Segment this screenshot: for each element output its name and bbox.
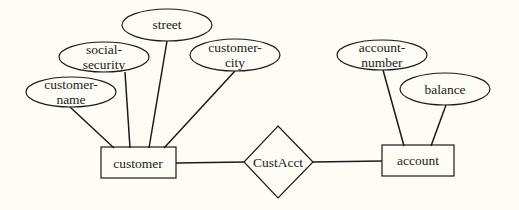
- edge-balance: [431, 105, 446, 146]
- label-line: customer-: [44, 77, 98, 92]
- edge-account-number: [383, 70, 404, 146]
- label-street: street: [152, 17, 181, 32]
- edge-street: [149, 41, 167, 148]
- label-social-security: social- security: [83, 42, 126, 72]
- label-custacct: CustAcct: [253, 155, 303, 170]
- edge-social-security: [125, 72, 130, 148]
- label-balance: balance: [424, 82, 465, 97]
- label-line: account-: [359, 40, 405, 55]
- edge-customer-custacct: [176, 162, 244, 163]
- er-diagram: customer- name social- security street c…: [0, 0, 519, 210]
- label-line: security: [83, 57, 126, 72]
- label-customer-city: customer- city: [208, 40, 262, 70]
- label-line: social-: [83, 42, 126, 57]
- edge-customer-city: [164, 71, 235, 148]
- label-customer-name: customer- name: [44, 77, 98, 107]
- label-account: account: [397, 153, 439, 168]
- label-account-number: account- number: [359, 40, 405, 70]
- label-line: city: [208, 55, 262, 70]
- edge-custacct-account: [313, 161, 382, 162]
- label-customer: customer: [113, 156, 163, 171]
- label-line: number: [359, 55, 405, 70]
- label-line: customer-: [208, 40, 262, 55]
- edge-customer-name: [70, 107, 114, 148]
- label-line: name: [44, 92, 98, 107]
